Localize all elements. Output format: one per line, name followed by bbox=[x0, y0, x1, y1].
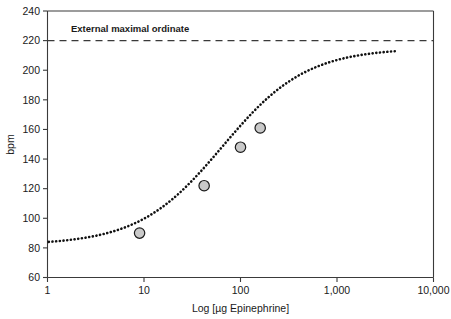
y-tick-label: 120 bbox=[22, 182, 40, 194]
y-tick-label: 160 bbox=[22, 123, 40, 135]
x-tick-label: 100 bbox=[232, 284, 250, 296]
data-point-marker bbox=[199, 181, 209, 191]
y-tick-label: 60 bbox=[28, 271, 40, 283]
data-point-marker bbox=[255, 123, 265, 133]
y-tick-group: 6080100120140160180200220240 bbox=[22, 5, 47, 284]
x-tick-label: 10 bbox=[138, 284, 150, 296]
external-maximal-ordinate-label: External maximal ordinate bbox=[71, 23, 189, 34]
chart-container: 6080100120140160180200220240 1101001,000… bbox=[0, 0, 451, 319]
x-tick-group: 1101001,00010,000 bbox=[45, 278, 450, 297]
data-point-marker bbox=[134, 228, 144, 238]
data-point-marker bbox=[235, 142, 245, 152]
dose-response-curve bbox=[49, 51, 395, 242]
dose-response-chart: 6080100120140160180200220240 1101001,000… bbox=[0, 0, 451, 319]
y-tick-label: 140 bbox=[22, 153, 40, 165]
x-tick-label: 1 bbox=[45, 284, 51, 296]
y-tick-label: 200 bbox=[22, 64, 40, 76]
y-tick-label: 100 bbox=[22, 212, 40, 224]
data-point-markers bbox=[134, 123, 265, 239]
y-tick-label: 220 bbox=[22, 34, 40, 46]
x-tick-label: 1,000 bbox=[324, 284, 350, 296]
x-axis-title: Log [µg Epinephrine] bbox=[192, 302, 289, 314]
y-axis-title: bpm bbox=[4, 134, 16, 155]
y-tick-label: 80 bbox=[28, 242, 40, 254]
y-tick-label: 240 bbox=[22, 5, 40, 17]
y-tick-label: 180 bbox=[22, 94, 40, 106]
x-tick-label: 10,000 bbox=[417, 284, 449, 296]
